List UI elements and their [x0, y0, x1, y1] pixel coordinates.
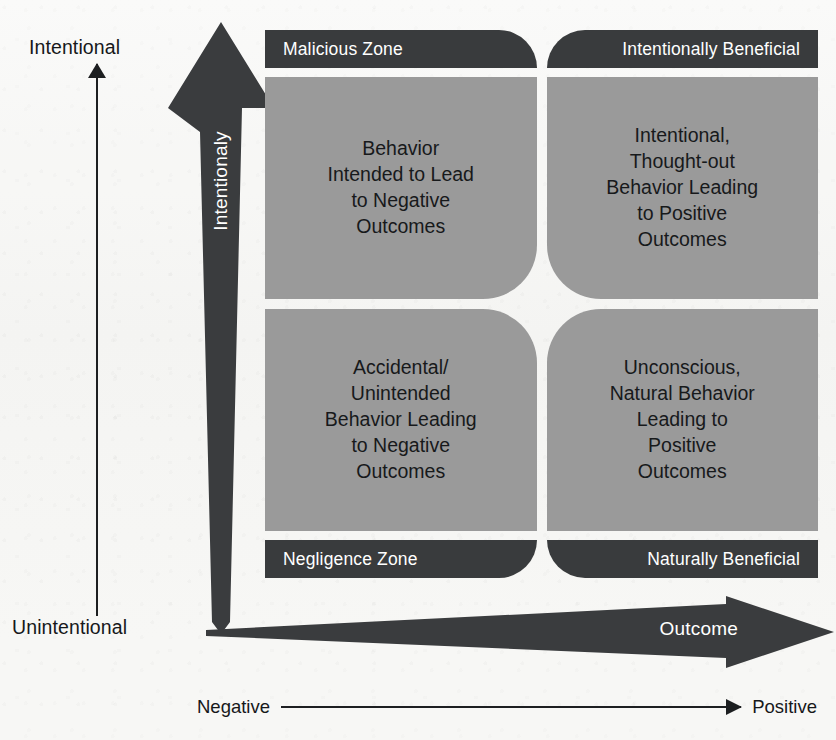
- quadrant-body: Unconscious,Natural BehaviorLeading toPo…: [547, 309, 819, 531]
- quadrant-malicious-zone: Malicious Zone BehaviorIntended to Leadt…: [265, 30, 537, 299]
- quadrant-band-label: Naturally Beneficial: [547, 540, 819, 578]
- quadrant-body: BehaviorIntended to Leadto NegativeOutco…: [265, 77, 537, 299]
- quadrant-text: Accidental/UnintendedBehavior Leadingto …: [325, 355, 477, 485]
- intentionaly-arrow-shape: [168, 22, 274, 634]
- quadrant-body: Accidental/UnintendedBehavior Leadingto …: [265, 309, 537, 531]
- quadrant-text-line: to Positive: [606, 201, 758, 227]
- outcome-arrow: Outcome: [206, 596, 834, 668]
- quadrant-text-line: to Negative: [328, 188, 474, 214]
- x-axis-right-label: Positive: [752, 696, 817, 718]
- y-axis-bottom-label: Unintentional: [12, 616, 127, 639]
- quadrant-text-line: Leading to: [610, 407, 755, 433]
- quadrant-gap: [265, 531, 537, 540]
- y-axis-top-label: Intentional: [29, 36, 120, 59]
- quadrant-text: Unconscious,Natural BehaviorLeading toPo…: [610, 355, 755, 485]
- quadrant-text: BehaviorIntended to Leadto NegativeOutco…: [328, 136, 474, 240]
- x-axis-scale: Negative Positive: [197, 694, 817, 720]
- quadrant-text-line: Thought-out: [606, 149, 758, 175]
- quadrant-text-line: Outcomes: [325, 459, 477, 485]
- quadrant-band-label: Intentionally Beneficial: [547, 30, 819, 68]
- quadrant-gap: [547, 531, 819, 540]
- intentionaly-arrow: Intentionaly: [168, 22, 274, 634]
- outcome-arrow-label: Outcome: [660, 618, 739, 640]
- quadrant-text-line: Outcomes: [610, 459, 755, 485]
- y-axis-line: [96, 64, 98, 616]
- quadrant-gap: [265, 68, 537, 77]
- quadrant-body: Intentional,Thought-outBehavior Leadingt…: [547, 77, 819, 299]
- quadrant-text-line: Natural Behavior: [610, 381, 755, 407]
- quadrant-text-line: Behavior: [328, 136, 474, 162]
- quadrant-text-line: Outcomes: [328, 214, 474, 240]
- quadrant-text-line: Unintended: [325, 381, 477, 407]
- quadrant-gap: [547, 68, 819, 77]
- quadrant-text-line: Behavior Leading: [606, 175, 758, 201]
- quadrant-text-line: Behavior Leading: [325, 407, 477, 433]
- quadrant-text-line: Intentional,: [606, 123, 758, 149]
- quadrant-text-line: Positive: [610, 433, 755, 459]
- x-axis-scale-line: [281, 706, 741, 708]
- quadrant-text-line: Accidental/: [325, 355, 477, 381]
- quadrant-text-line: Intended to Lead: [328, 162, 474, 188]
- quadrant-intentionally-beneficial: Intentionally Beneficial Intentional,Tho…: [547, 30, 819, 299]
- quadrant-negligence-zone: Accidental/UnintendedBehavior Leadingto …: [265, 309, 537, 578]
- quadrant-text-line: to Negative: [325, 433, 477, 459]
- quadrant-band-label: Negligence Zone: [265, 540, 537, 578]
- quadrant-matrix: Malicious Zone BehaviorIntended to Leadt…: [265, 30, 818, 578]
- quadrant-text-line: Unconscious,: [610, 355, 755, 381]
- quadrant-naturally-beneficial: Unconscious,Natural BehaviorLeading toPo…: [547, 309, 819, 578]
- quadrant-band-label: Malicious Zone: [265, 30, 537, 68]
- quadrant-text-line: Outcomes: [606, 227, 758, 253]
- outcome-arrow-shape: [206, 596, 834, 668]
- diagram-canvas: Intentional Unintentional Intentionaly O…: [0, 0, 836, 740]
- quadrant-text: Intentional,Thought-outBehavior Leadingt…: [606, 123, 758, 253]
- intentionaly-arrow-label: Intentionaly: [210, 131, 232, 231]
- x-axis-scale-arrowhead-icon: [726, 699, 742, 715]
- x-axis-left-label: Negative: [197, 696, 270, 718]
